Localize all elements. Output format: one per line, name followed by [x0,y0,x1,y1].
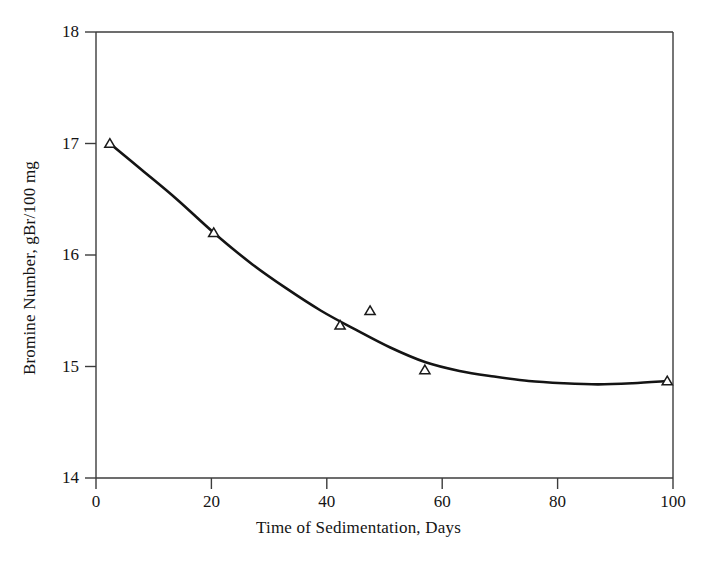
y-tick-label-14: 14 [45,468,79,488]
y-tick-label-16: 16 [45,245,79,265]
y-tick-label-18: 18 [45,22,79,42]
x-tick-label-20: 20 [189,492,233,512]
x-tick-label-0: 0 [74,492,118,512]
x-axis-tick-marks [96,478,673,489]
x-tick-label-60: 60 [420,492,464,512]
x-axis-title: Time of Sedimentation, Days [0,518,717,538]
axes-frame [96,32,673,478]
data-point-marker [365,306,375,315]
figure-canvas: 18 17 16 15 14 0 20 40 60 80 100 Time of… [0,0,717,566]
trend-curve-line [110,144,667,385]
data-point-marker [420,365,430,374]
x-tick-label-100: 100 [651,492,695,512]
y-tick-label-17: 17 [45,134,79,154]
data-point-marker [105,139,115,148]
x-tick-label-80: 80 [536,492,580,512]
chart-plot [0,0,717,566]
y-axis-tick-marks [85,32,96,478]
x-tick-label-40: 40 [305,492,349,512]
y-tick-label-15: 15 [45,357,79,377]
